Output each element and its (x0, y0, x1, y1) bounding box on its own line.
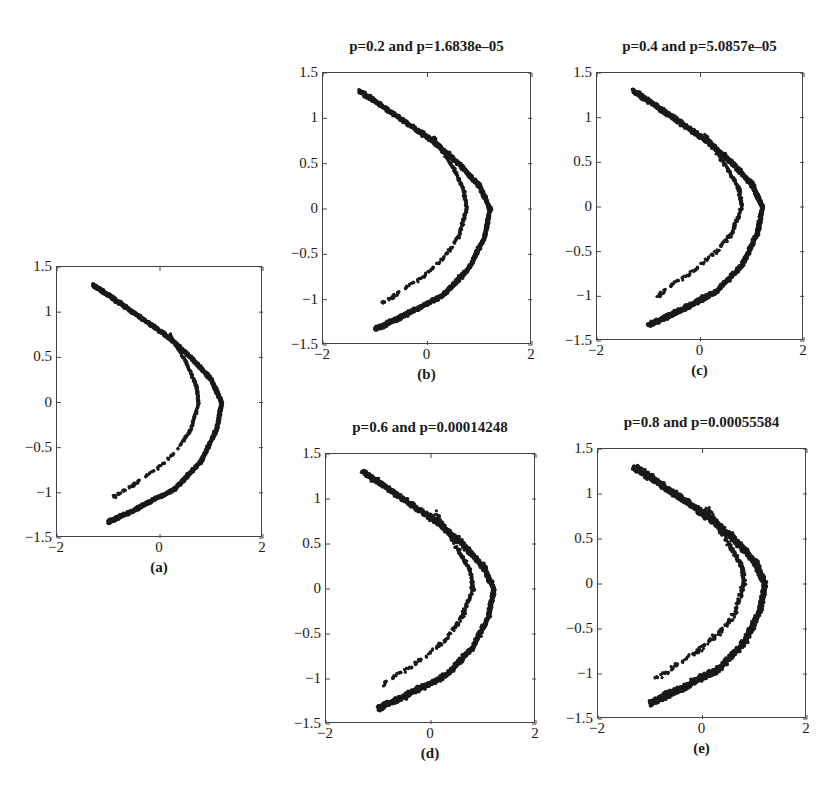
panel-e-xtick-label: 2 (802, 720, 810, 737)
panel-a-scatter (57, 267, 263, 538)
panel-a-xtick-label: 2 (258, 539, 266, 556)
panel-e-ytick-label: −0.5 (553, 620, 593, 637)
panel-e-ytick-label: −1 (553, 665, 593, 682)
panel-a-xtick-label: 0 (155, 539, 163, 556)
panel-b-ytick-label: 1.5 (278, 64, 318, 81)
panel-d-xtick-label: 2 (531, 725, 539, 742)
panel-b-ytick-label: −1 (278, 290, 318, 307)
panel-b-xtick-label: 0 (423, 346, 431, 363)
panel-c-scatter (597, 73, 804, 341)
panel-d-ytick-label: −0.5 (281, 625, 321, 642)
panel-c-ytick-label: −1 (552, 287, 592, 304)
panel-d-xtick-label: −2 (317, 725, 333, 742)
panel-b-ytick-label: −0.5 (278, 245, 318, 262)
panel-d-ytick-label: 0 (281, 580, 321, 597)
panel-d-ytick-label: −1.5 (281, 715, 321, 732)
panel-d-scatter (326, 454, 536, 724)
panel-e-ytick-label: 0 (553, 575, 593, 592)
panel-e-axes (597, 448, 806, 718)
panel-c-ytick-label: 0 (552, 198, 592, 215)
panel-d-axes (325, 453, 535, 723)
panel-e-xtick-label: 0 (698, 720, 706, 737)
panel-e-title: p=0.8 and p=0.00055584 (624, 414, 779, 431)
panel-d-title: p=0.6 and p=0.00014248 (352, 419, 507, 436)
panel-c-xtick-label: −2 (588, 342, 604, 359)
panel-e-caption: (e) (693, 740, 710, 757)
panel-e-ytick-label: 1 (553, 485, 593, 502)
panel-a-ytick-label: 0 (12, 393, 52, 410)
panel-a-axes (56, 266, 262, 537)
panel-b-ytick-label: 1 (278, 109, 318, 126)
panel-a-caption: (a) (150, 559, 168, 576)
panel-e-xtick-label: −2 (589, 720, 605, 737)
panel-b-ytick-label: −1.5 (278, 336, 318, 353)
panel-a-ytick-label: −0.5 (12, 438, 52, 455)
panel-e-ytick-label: −1.5 (553, 710, 593, 727)
panel-b-title: p=0.2 and p=1.6838e–05 (349, 38, 504, 55)
panel-a-xtick-label: −2 (48, 539, 64, 556)
panel-b-caption: (b) (417, 366, 435, 383)
panel-a-ytick-label: −1.5 (12, 529, 52, 546)
panel-a-ytick-label: −1 (12, 483, 52, 500)
panel-b-xtick-label: −2 (314, 346, 330, 363)
panel-c-xtick-label: 2 (799, 342, 807, 359)
panel-d-ytick-label: 1.5 (281, 445, 321, 462)
panel-a-ytick-label: 1.5 (12, 258, 52, 275)
panel-d-caption: (d) (421, 745, 439, 762)
panel-c-ytick-label: 1.5 (552, 64, 592, 81)
panel-b-axes (322, 72, 531, 344)
panel-c-ytick-label: 1 (552, 108, 592, 125)
panel-b-ytick-label: 0 (278, 200, 318, 217)
panel-c-xtick-label: 0 (696, 342, 704, 359)
panel-c-ytick-label: −1.5 (552, 332, 592, 349)
panel-d-ytick-label: −1 (281, 670, 321, 687)
panel-c-ytick-label: 0.5 (552, 153, 592, 170)
panel-c-axes (596, 72, 803, 340)
panel-d-ytick-label: 1 (281, 490, 321, 507)
panel-e-scatter (598, 449, 807, 719)
panel-d-xtick-label: 0 (426, 725, 434, 742)
panel-b-scatter (323, 73, 532, 345)
panel-e-ytick-label: 0.5 (553, 530, 593, 547)
panel-c-caption: (c) (691, 362, 708, 379)
panel-e-ytick-label: 1.5 (553, 440, 593, 457)
panel-b-ytick-label: 0.5 (278, 154, 318, 171)
panel-c-ytick-label: −0.5 (552, 242, 592, 259)
panel-a-ytick-label: 1 (12, 303, 52, 320)
panel-c-title: p=0.4 and p=5.0857e–05 (622, 38, 777, 55)
panel-b-xtick-label: 2 (527, 346, 535, 363)
panel-d-ytick-label: 0.5 (281, 535, 321, 552)
panel-a-ytick-label: 0.5 (12, 348, 52, 365)
